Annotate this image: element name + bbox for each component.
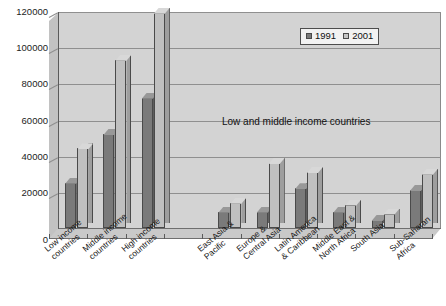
x-axis-label: Europe &Central Asia bbox=[235, 218, 282, 262]
x-axis-label: Middle East &North Africa bbox=[311, 213, 363, 261]
x-axis-label: East Asia &Pacific bbox=[196, 219, 242, 261]
chart-legend: 1991 2001 bbox=[300, 28, 379, 45]
bar-chart: 120000100000800006000040000200000 Low in… bbox=[0, 0, 446, 306]
legend-item-1991: 1991 bbox=[306, 31, 336, 41]
legend-swatch-icon bbox=[343, 33, 349, 39]
legend-label: 2001 bbox=[352, 31, 373, 41]
x-axis-labels: Low incomecountriesMiddle incomecountrie… bbox=[0, 0, 446, 306]
x-axis-label: Low incomecountries bbox=[43, 218, 90, 262]
chart-annotation: Low and middle income countries bbox=[222, 116, 370, 127]
x-axis-label: Sub-SaharanAfrica bbox=[388, 215, 439, 262]
legend-swatch-icon bbox=[306, 33, 312, 39]
legend-label: 1991 bbox=[315, 31, 336, 41]
legend-item-2001: 2001 bbox=[343, 31, 373, 41]
